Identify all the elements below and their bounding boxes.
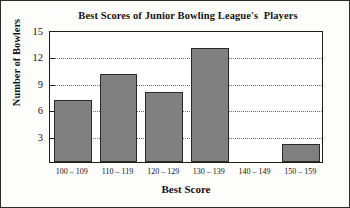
plot-area: [49, 31, 323, 163]
y-tick-label: 6: [3, 105, 43, 116]
x-tick-label: 100 – 109: [49, 167, 95, 176]
x-tick-label: 140 – 149: [232, 167, 278, 176]
bar: [282, 144, 319, 162]
bar: [145, 92, 182, 162]
bar: [191, 48, 228, 162]
gridline: [50, 85, 322, 86]
y-tick-label: 12: [3, 52, 43, 63]
y-tick-mark: [50, 85, 55, 86]
x-tick-label: 120 – 129: [140, 167, 186, 176]
y-tick-label: 9: [3, 78, 43, 89]
x-tick-label: 130 – 139: [186, 167, 232, 176]
x-axis-title: Best Score: [49, 183, 323, 195]
bar: [54, 100, 91, 162]
y-tick-label: 3: [3, 131, 43, 142]
bar-chart-figure: Best Scores of Junior Bowling League's P…: [0, 0, 350, 208]
y-tick-label: 15: [3, 26, 43, 37]
bar: [100, 74, 137, 162]
y-tick-mark: [50, 58, 55, 59]
x-tick-label: 150 – 159: [277, 167, 323, 176]
plot-inner: [50, 32, 322, 162]
x-tick-label: 110 – 119: [95, 167, 141, 176]
gridline: [50, 58, 322, 59]
chart-title: Best Scores of Junior Bowling League's P…: [49, 10, 327, 21]
